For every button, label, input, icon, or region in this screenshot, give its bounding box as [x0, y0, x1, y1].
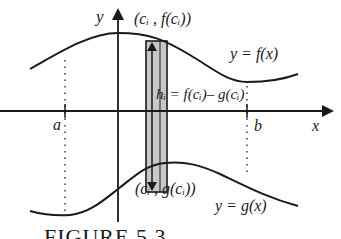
- bottom-point-label: (cᵢ , g(cᵢ)): [135, 181, 196, 197]
- f-curve-label: y = f(x): [230, 46, 278, 62]
- height-label: hᵢ = f(cᵢ)– g(cᵢ): [156, 87, 244, 102]
- y-axis-label: y: [96, 8, 104, 25]
- x-axis-arrow-icon: [322, 105, 334, 117]
- bound-a-label: a: [53, 117, 61, 133]
- area-between-curves-diagram: y x a b (cᵢ , f(cᵢ)) (cᵢ , g(cᵢ)) hᵢ = f…: [0, 0, 341, 239]
- x-axis-label: x: [312, 118, 319, 134]
- y-axis-arrow-icon: [112, 8, 124, 20]
- top-point-label: (cᵢ , f(cᵢ)): [134, 11, 191, 27]
- bound-b-label: b: [254, 118, 262, 134]
- figure-caption: FIGURE 5.3: [44, 226, 166, 239]
- diagram-graphics: [0, 0, 341, 239]
- riemann-rectangle: [146, 41, 167, 192]
- g-curve-label: y = g(x): [215, 198, 267, 214]
